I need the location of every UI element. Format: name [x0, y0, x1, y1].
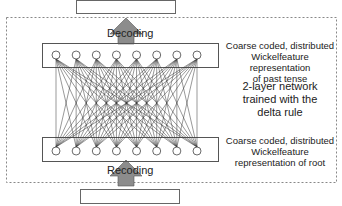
output-unit	[173, 51, 181, 59]
output-word-box	[77, 1, 176, 14]
output-unit	[153, 51, 161, 59]
output-layer-box	[43, 44, 219, 68]
input-unit	[52, 147, 60, 155]
output-unit	[72, 51, 80, 59]
input-layer-box	[43, 138, 219, 162]
input-unit	[133, 147, 141, 155]
connection-weights	[56, 59, 197, 147]
input-word-box	[81, 190, 180, 204]
input-unit	[153, 147, 161, 155]
output-unit	[112, 51, 120, 59]
input-unit	[193, 147, 201, 155]
input-unit	[112, 147, 120, 155]
output-unit	[52, 51, 60, 59]
output-layer-description: Coarse coded, distributed Wickelfeature …	[220, 40, 340, 84]
input-layer-description: Coarse coded, distributed Wickelfeature …	[220, 135, 340, 168]
input-unit	[173, 147, 181, 155]
input-unit	[92, 147, 100, 155]
network-description: 2-layer network trained with the delta r…	[224, 80, 336, 119]
recoding-label: Recoding	[107, 164, 153, 176]
output-unit	[133, 51, 141, 59]
input-unit	[72, 147, 80, 155]
output-unit	[92, 51, 100, 59]
output-unit	[193, 51, 201, 59]
decoding-label: Decoding	[107, 27, 153, 39]
